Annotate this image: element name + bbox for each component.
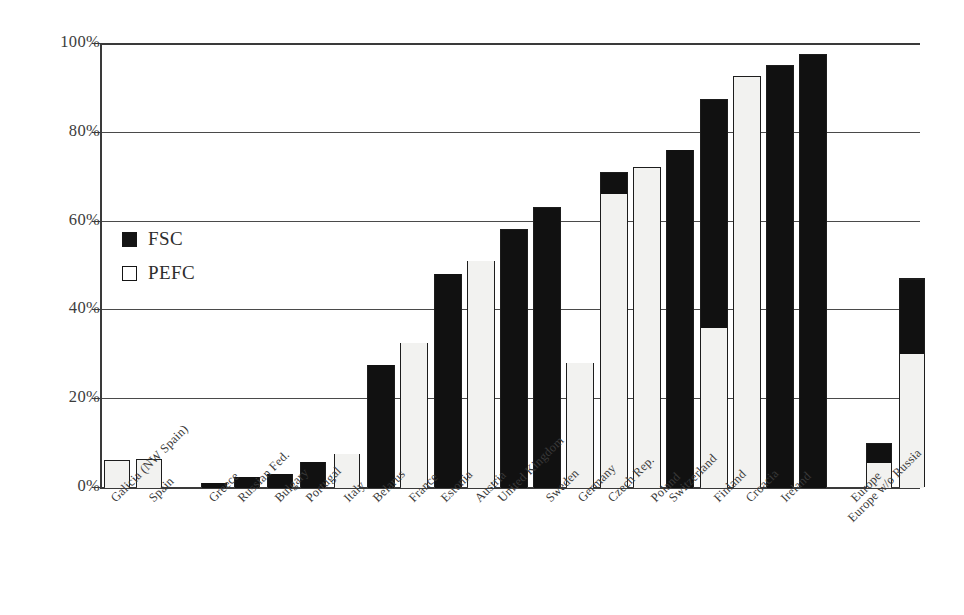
legend-swatch-pefc-icon: [122, 266, 137, 281]
x-axis-labels: Galicia (NW Spain)SpainGreeceRussian Fed…: [0, 489, 964, 615]
legend-item-pefc: PEFC: [122, 256, 272, 290]
certified-forest-area-bar-chart: 0%20%40%60%80%100% FSC PEFC Galicia (NW …: [0, 0, 964, 615]
bar-segment-pefc: [468, 261, 494, 487]
bar: [434, 274, 462, 487]
legend: FSC PEFC: [122, 222, 272, 290]
bar-segment-fsc: [800, 55, 826, 488]
bar: [467, 261, 495, 487]
bar-segment-pefc: [601, 194, 627, 487]
bar-segment-fsc: [501, 230, 527, 488]
bar-segment-fsc: [667, 150, 693, 487]
bar-segment-fsc: [701, 99, 727, 328]
bar-segment-fsc: [867, 443, 891, 463]
bar-segment-fsc: [368, 365, 394, 487]
bar-segment-fsc: [767, 66, 793, 488]
bar-segment-fsc: [900, 279, 924, 354]
bar-segment-pefc: [634, 168, 660, 488]
bar: [666, 150, 694, 487]
bar-segment-fsc: [435, 274, 461, 487]
legend-item-fsc: FSC: [122, 222, 272, 256]
bar: [799, 54, 827, 487]
bar: [600, 172, 628, 487]
bar: [633, 167, 661, 487]
bar: [700, 99, 728, 488]
bar: [367, 365, 395, 487]
legend-label-fsc: FSC: [148, 228, 183, 250]
bar-segment-fsc: [601, 172, 627, 194]
bar: [500, 229, 528, 487]
bar: [766, 65, 794, 487]
bar: [400, 343, 428, 487]
legend-swatch-fsc-icon: [122, 232, 137, 247]
bar: [733, 76, 761, 487]
legend-label-pefc: PEFC: [148, 262, 195, 284]
bar-segment-pefc: [734, 77, 760, 488]
bar-segment-pefc: [401, 343, 427, 487]
